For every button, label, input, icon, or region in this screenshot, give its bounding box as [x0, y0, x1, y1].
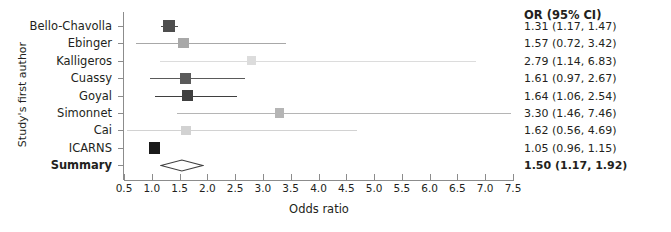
y-axis-tick [118, 78, 124, 79]
or-value-cai: 1.62 (0.56, 4.69) [524, 124, 617, 137]
effect-size-marker [181, 126, 191, 136]
confidence-interval-line [150, 78, 244, 79]
effect-size-marker [163, 20, 174, 31]
y-axis-tick [118, 43, 124, 44]
x-axis-tick [402, 174, 403, 180]
confidence-interval-line [155, 96, 237, 97]
or-value-kalligeros: 2.79 (1.14, 6.83) [524, 55, 617, 68]
x-axis-title: Odds ratio [124, 202, 514, 216]
confidence-interval-line [177, 113, 510, 114]
x-axis-tick [180, 174, 181, 180]
y-axis-tick [118, 165, 124, 166]
effect-size-marker [247, 56, 256, 65]
summary-diamond [160, 159, 204, 172]
or-value-icarns: 1.05 (0.96, 1.15) [524, 142, 617, 155]
confidence-interval-line [127, 130, 357, 131]
y-axis-tick [118, 148, 124, 149]
x-axis-tick [291, 174, 292, 180]
or-value-ebinger: 1.57 (0.72, 3.42) [524, 37, 617, 50]
y-axis-tick [118, 130, 124, 131]
or-value-cuassy: 1.61 (0.97, 2.67) [524, 72, 617, 85]
effect-size-marker [178, 38, 188, 48]
x-axis-tick [235, 174, 236, 180]
x-axis-tick [152, 174, 153, 180]
or-value-bello-chavolla: 1.31 (1.17, 1.47) [524, 20, 617, 33]
x-axis-tick [263, 174, 264, 180]
forest-plot-figure: Study's first author Bello-ChavollaEbing… [0, 0, 671, 232]
effect-size-marker [182, 90, 193, 101]
x-axis-tick [513, 174, 514, 180]
x-axis-tick [207, 174, 208, 180]
x-axis-tick [374, 174, 375, 180]
confidence-interval-line [160, 61, 476, 62]
confidence-interval-line [136, 43, 286, 44]
x-axis-tick [485, 174, 486, 180]
y-axis-tick [118, 26, 124, 27]
effect-size-marker [149, 142, 161, 154]
y-axis-tick [118, 113, 124, 114]
x-axis-tick [430, 174, 431, 180]
y-axis-tick [118, 61, 124, 62]
or-value-goyal: 1.64 (1.06, 2.54) [524, 90, 617, 103]
x-axis-tick [124, 174, 125, 180]
x-axis-tick [319, 174, 320, 180]
or-value-column: OR (95% CI) 1.31 (1.17, 1.47)1.57 (0.72,… [524, 0, 671, 185]
x-axis-tick [346, 174, 347, 180]
or-value-simonnet: 3.30 (1.46, 7.46) [524, 107, 617, 120]
y-axis-tick [118, 96, 124, 97]
x-axis-tick [457, 174, 458, 180]
effect-size-marker [275, 108, 284, 117]
x-axis-line [124, 180, 514, 181]
effect-size-marker [180, 73, 191, 84]
or-value-summary: 1.50 (1.17, 1.92) [524, 159, 627, 172]
